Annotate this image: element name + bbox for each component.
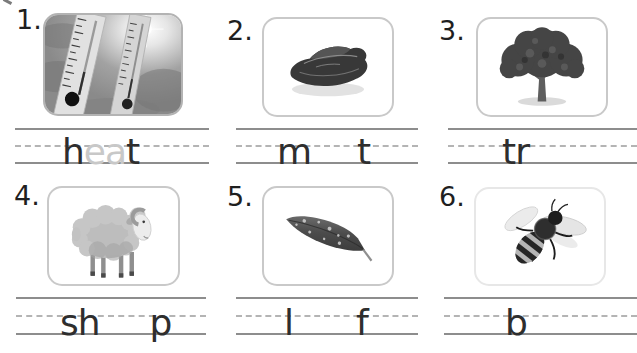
dashed-midline-6 [444, 315, 637, 317]
item-number-3: 3. [439, 17, 465, 44]
traced-letter: e [84, 134, 105, 170]
dashed-midline-3 [448, 145, 637, 147]
answer-word-2: mt [277, 134, 370, 170]
letter: t [126, 134, 139, 170]
letter: t [502, 134, 515, 170]
letter: h [62, 134, 84, 170]
letter: t [357, 134, 370, 170]
answer-word-3: tr [502, 134, 529, 170]
image-card-5 [262, 186, 394, 286]
item-number-1: 1. [16, 6, 42, 33]
letter: h [78, 305, 100, 341]
bee-image [484, 194, 596, 280]
answer-word-5: lf [284, 305, 368, 341]
image-card-1 [43, 13, 183, 116]
answer-word-6: b [505, 305, 527, 341]
letter: s [60, 305, 78, 341]
image-card-2 [262, 17, 394, 117]
scan-speck [3, 0, 12, 5]
letter: b [505, 305, 527, 341]
item-number-4: 4. [14, 182, 40, 209]
leaf-image [269, 192, 387, 280]
letter: m [277, 134, 311, 170]
image-card-3 [476, 17, 608, 117]
tree-image [485, 23, 599, 111]
sheep-image [55, 190, 173, 282]
letter: p [150, 305, 172, 341]
item-number-6: 6. [439, 183, 465, 210]
thermometers-image [45, 15, 181, 114]
writing-lines-6[interactable] [444, 297, 637, 335]
answer-word-1: heat [62, 134, 139, 170]
letter: l [284, 305, 293, 341]
image-card-4 [47, 186, 180, 286]
image-card-6 [474, 187, 606, 286]
traced-letter: a [105, 134, 126, 170]
item-number-5: 5. [227, 183, 253, 210]
meat-image [270, 24, 386, 110]
writing-lines-3[interactable] [448, 128, 637, 164]
answer-word-4: shp [60, 305, 171, 341]
letter: f [356, 305, 368, 341]
letter: r [515, 134, 529, 170]
item-number-2: 2. [227, 17, 253, 44]
worksheet-page: 1. 2. 3. 4. 5. 6. [0, 0, 637, 353]
